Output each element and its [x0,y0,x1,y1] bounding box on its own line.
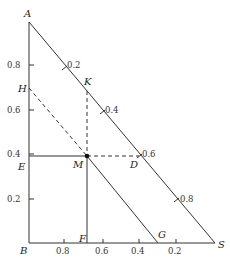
bottom-tick-0.2: 0.2 [168,246,182,256]
label-H: H [17,83,27,94]
label-B: B [19,245,27,256]
label-E: E [17,161,26,172]
label-K: K [83,76,92,87]
label-F: F [78,233,87,244]
label-D: D [129,159,138,170]
hyp-tick-0.6: 0.6 [142,149,156,159]
label-M: M [72,159,84,170]
hyp-tick-0.8: 0.8 [180,194,194,204]
bottom-tick-0.6: 0.6 [95,246,109,256]
left-tick-0.2: 0.2 [7,194,21,204]
label-G: G [158,229,166,240]
left-tick-0.6: 0.6 [7,105,21,115]
hyp-tick-0.4: 0.4 [105,105,119,115]
left-tick-0.8: 0.8 [7,60,21,70]
dashed-line-HM [29,88,87,156]
label-S: S [218,239,225,250]
left-tick-0.4: 0.4 [7,149,21,159]
label-A: A [23,8,31,19]
bottom-tick-0.8: 0.8 [56,246,70,256]
point-M-marker [85,154,90,159]
hypotenuse-AS [29,22,215,243]
line-MG [87,156,158,243]
hyp-tick-0.2: 0.2 [67,60,81,70]
bottom-tick-0.4: 0.4 [131,246,145,256]
ternary-diagram: 0.8 0.6 0.4 0.2 0.8 0.6 0.4 0.2 0.2 0.4 … [0,0,230,266]
